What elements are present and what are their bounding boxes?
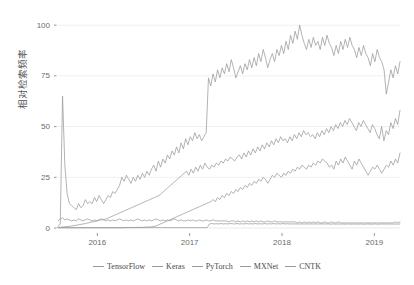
- x-tick-label: 2017: [170, 238, 210, 247]
- legend-line-icon: [240, 266, 251, 267]
- legend-item-pytorch[interactable]: PyTorch: [192, 262, 233, 271]
- legend-label: MXNet: [254, 262, 278, 271]
- legend-line-icon: [192, 266, 203, 267]
- series-line-pytorch: [58, 153, 400, 228]
- x-tick-label: 2016: [77, 238, 117, 247]
- legend-item-tensorflow[interactable]: TensorFlow: [93, 262, 145, 271]
- y-tick-label: 25: [24, 173, 50, 182]
- line-chart: 相对检索频率 1007550250 2016201720182019 Tenso…: [0, 0, 414, 285]
- y-tick-label: 75: [24, 71, 50, 80]
- y-tick-label: 0: [24, 224, 50, 233]
- y-tick-marks: [54, 25, 57, 228]
- gridlines: [58, 25, 400, 228]
- legend-line-icon: [152, 266, 163, 267]
- legend-label: CNTK: [299, 262, 321, 271]
- legend-label: TensorFlow: [107, 262, 145, 271]
- series-line-cntk: [58, 224, 400, 228]
- x-tick-marks: [97, 233, 374, 236]
- legend-item-keras[interactable]: Keras: [152, 262, 185, 271]
- legend-line-icon: [93, 266, 104, 267]
- legend-label: Keras: [166, 262, 185, 271]
- y-tick-label: 100: [24, 21, 50, 30]
- y-tick-label: 50: [24, 122, 50, 131]
- series-line-keras: [58, 110, 400, 227]
- legend-line-icon: [285, 266, 296, 267]
- series-line-mxnet: [58, 218, 400, 223]
- legend-item-cntk[interactable]: CNTK: [285, 262, 321, 271]
- legend-label: PyTorch: [206, 262, 233, 271]
- x-tick-label: 2019: [354, 238, 394, 247]
- chart-legend: TensorFlowKerasPyTorchMXNetCNTK: [0, 262, 414, 271]
- legend-item-mxnet[interactable]: MXNet: [240, 262, 278, 271]
- x-tick-label: 2018: [262, 238, 302, 247]
